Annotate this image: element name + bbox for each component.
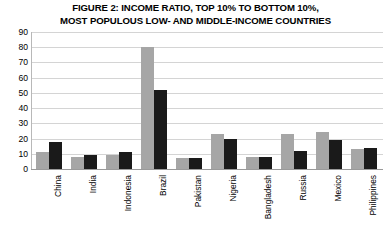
bar-series-b <box>49 142 62 169</box>
bar-series-a <box>176 158 189 169</box>
x-axis-line <box>31 169 382 170</box>
bar-series-b <box>189 158 202 169</box>
bar-group <box>277 32 312 169</box>
y-axis-tick-label: 90 <box>18 28 28 36</box>
bar-group <box>242 32 277 169</box>
x-axis-tick-label: Nigeria <box>228 175 238 228</box>
chart-title-line-1: FIGURE 2: INCOME RATIO, TOP 10% TO BOTTO… <box>0 2 391 15</box>
y-axis-tick-label: 30 <box>18 119 28 127</box>
bar-series-a <box>281 134 294 169</box>
y-axis-tick-label: 20 <box>18 135 28 143</box>
bar-group <box>31 32 66 169</box>
bars-layer <box>31 32 382 169</box>
plot-wrapper: 0102030405060708090 ChinaIndiaIndonesiaB… <box>0 26 391 228</box>
bar-series-a <box>211 134 224 169</box>
bar-group <box>171 32 206 169</box>
x-axis: ChinaIndiaIndonesiaBrazilPakistanNigeria… <box>31 173 382 228</box>
bar-group <box>101 32 136 169</box>
bar-series-b <box>329 140 342 169</box>
y-axis: 0102030405060708090 <box>0 26 30 171</box>
bar-series-a <box>71 157 84 169</box>
x-axis-tick-label: China <box>53 175 63 228</box>
x-axis-tick-label: Brazil <box>158 175 168 228</box>
bar-series-b <box>259 157 272 169</box>
bar-series-a <box>246 157 259 169</box>
bar-group <box>207 32 242 169</box>
bar-series-b <box>364 148 377 169</box>
bar-series-b <box>154 90 167 169</box>
bar-group <box>312 32 347 169</box>
y-axis-tick-label: 40 <box>18 104 28 112</box>
bar-group <box>136 32 171 169</box>
y-axis-tick-label: 60 <box>18 74 28 82</box>
x-axis-tick-label: Russia <box>298 175 308 228</box>
y-axis-tick-label: 50 <box>18 89 28 97</box>
bar-series-b <box>119 152 132 169</box>
x-axis-tick-label: India <box>88 175 98 228</box>
bar-series-a <box>106 155 119 169</box>
y-axis-tick-label: 0 <box>23 165 28 173</box>
y-axis-tick-label: 10 <box>18 150 28 158</box>
y-axis-tick-label: 70 <box>18 58 28 66</box>
x-axis-tick-label: Bangladesh <box>263 175 273 228</box>
x-axis-tick-label: Pakistan <box>193 175 203 228</box>
bar-group <box>347 32 382 169</box>
bar-series-b <box>224 139 237 169</box>
y-axis-tick-label: 80 <box>18 43 28 51</box>
x-axis-tick-label: Indonesia <box>123 175 133 228</box>
bar-series-b <box>294 151 307 169</box>
bar-series-a <box>316 132 329 169</box>
bar-series-a <box>141 47 154 169</box>
bar-series-b <box>84 155 97 169</box>
x-axis-tick-label: Mexico <box>333 175 343 228</box>
chart-title: FIGURE 2: INCOME RATIO, TOP 10% TO BOTTO… <box>0 2 391 27</box>
bar-series-a <box>36 152 49 169</box>
bar-group <box>66 32 101 169</box>
chart-figure: FIGURE 2: INCOME RATIO, TOP 10% TO BOTTO… <box>0 0 391 228</box>
bar-series-a <box>351 149 364 169</box>
x-axis-tick-label: Philippines <box>368 175 378 228</box>
